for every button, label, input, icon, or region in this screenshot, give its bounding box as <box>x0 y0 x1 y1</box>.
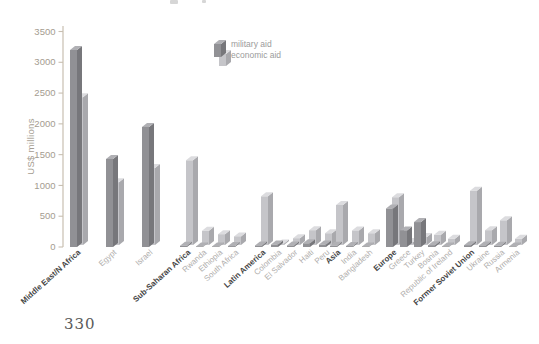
bar-pair-rwanda <box>196 227 214 247</box>
category-label-israel: Israel <box>134 248 155 268</box>
group-middle-east-n-africa: Middle East/N AfricaEgyptIsrael <box>19 46 160 306</box>
bar-peru-military <box>319 241 331 247</box>
bar-egypt-military <box>106 155 118 247</box>
bar-europe-military <box>386 205 398 247</box>
bar-asia-economic <box>336 201 348 245</box>
bar-former-soviet-union-economic <box>470 187 482 245</box>
y-tick-label-1500: 1500 <box>34 149 55 160</box>
bar-latin-america-military <box>255 241 267 247</box>
bar-sub-saharan-africa-economic <box>186 156 198 245</box>
bar-colombia-military <box>271 241 283 247</box>
y-tick-label-500: 500 <box>40 210 56 221</box>
bar-pair-colombia <box>271 239 289 247</box>
bar-pair-middle-east-n-africa <box>70 46 88 247</box>
bar-pair-haiti <box>303 226 321 247</box>
bar-greece-military <box>400 226 412 247</box>
bar-israel-military <box>142 123 154 247</box>
bar-former-soviet-union-military <box>464 241 476 247</box>
bar-rwanda-economic <box>202 227 214 245</box>
y-axis-title: US$ millions <box>25 102 36 192</box>
page-number: 330 <box>64 315 96 333</box>
bar-pair-india <box>346 227 364 247</box>
bar-pair-ethiopia <box>212 230 230 247</box>
chart-page: 0500100015002000250030003500Middle East/… <box>0 0 539 344</box>
y-tick-label-0: 0 <box>50 241 55 252</box>
bar-middle-east-n-africa-military <box>70 46 82 247</box>
bar-pair-sub-saharan-africa <box>180 156 198 247</box>
y-tick-label-2500: 2500 <box>34 87 55 98</box>
bar-pair-egypt <box>106 155 124 247</box>
legend-label-military: military aid <box>231 39 281 50</box>
category-label-haiti: Haiti <box>297 248 315 266</box>
y-axis: 0500100015002000250030003500 <box>34 26 63 253</box>
y-tick-label-3500: 3500 <box>34 26 55 37</box>
legend-icon <box>214 40 231 66</box>
group-europe: EuropeGreeceTurkeyBosniaRepublic of Irel… <box>372 193 460 299</box>
bar-pair-turkey <box>414 218 432 247</box>
y-tick-label-3000: 3000 <box>34 56 55 67</box>
bar-pair-south-africa <box>228 232 246 247</box>
bar-sub-saharan-africa-military <box>180 242 192 247</box>
bar-pair-israel <box>142 123 160 247</box>
bar-el-salvador-military <box>287 241 299 247</box>
bar-pair-bangladesh <box>362 229 380 247</box>
bar-russia-economic <box>500 216 512 245</box>
bar-pair-el-salvador <box>287 234 305 247</box>
bar-pair-former-soviet-union <box>464 187 482 247</box>
legend-label-economic: economic aid <box>231 50 281 61</box>
bar-pair-latin-america <box>255 192 273 247</box>
bar-latin-america-economic <box>261 192 273 245</box>
y-tick-label-1000: 1000 <box>34 180 55 191</box>
category-label-egypt: Egypt <box>97 247 119 268</box>
category-label-middle-east-n-africa: Middle East/N Africa <box>19 247 83 306</box>
bar-ukraine-military <box>479 241 491 247</box>
y-tick-label-2000: 2000 <box>34 118 55 129</box>
chart-legend: military aid economic aid <box>231 39 281 61</box>
bar-russia-military <box>494 242 506 247</box>
bar-turkey-military <box>414 218 426 247</box>
